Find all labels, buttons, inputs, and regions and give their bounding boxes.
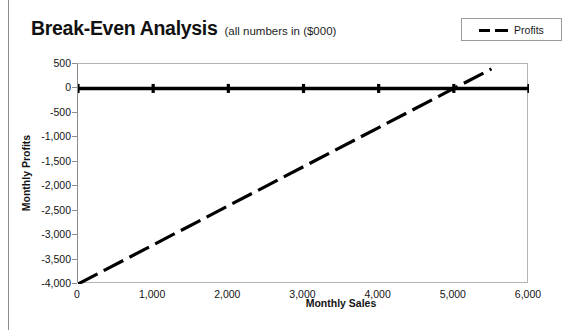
y-tick-label: -500 [50, 106, 71, 118]
y-axis-title: Monthly Profits [20, 135, 32, 211]
plot-area [77, 63, 528, 283]
data-point-marker [78, 84, 80, 93]
y-tick-mark [72, 136, 77, 137]
y-tick-mark [72, 63, 77, 64]
y-tick-label: -3,000 [41, 228, 71, 240]
chart-legend: Profits [461, 18, 562, 41]
data-point-marker [377, 84, 380, 93]
legend-label: Profits [514, 24, 544, 36]
y-tick-label: -2,500 [41, 204, 71, 216]
x-tick-label: 2,000 [214, 288, 240, 300]
y-tick-label: 0 [65, 81, 71, 93]
x-tick-label: 5,000 [440, 288, 466, 300]
chart-header: Break-Even Analysis (all numbers in ($00… [31, 17, 336, 40]
y-tick-label: 500 [53, 57, 71, 69]
legend-dashed-line-icon [479, 25, 511, 35]
y-tick-mark [72, 283, 77, 284]
legend-item-profits: Profits [479, 24, 544, 36]
y-tick-label: -4,000 [41, 277, 71, 289]
y-tick-label: -1,500 [41, 155, 71, 167]
plot-svg [78, 64, 529, 284]
series-line [78, 69, 491, 284]
y-tick-mark [72, 112, 77, 113]
y-tick-mark [72, 185, 77, 186]
y-tick-label: -1,000 [41, 130, 71, 142]
chart-subtitle: (all numbers in ($000) [225, 25, 337, 37]
y-tick-label: -2,000 [41, 179, 71, 191]
data-point-marker [527, 84, 529, 93]
y-tick-mark [72, 161, 77, 162]
y-tick-mark [72, 259, 77, 260]
data-point-marker [152, 84, 155, 93]
y-tick-mark [72, 210, 77, 211]
page-left-border [8, 0, 9, 330]
x-axis-title: Monthly Sales [306, 297, 377, 309]
y-tick-mark [72, 234, 77, 235]
x-tick-label: 6,000 [515, 288, 541, 300]
data-point-marker [227, 84, 230, 93]
chart-title: Break-Even Analysis [31, 17, 218, 40]
data-point-marker [302, 84, 305, 93]
y-tick-mark [72, 87, 77, 88]
x-tick-label: 1,000 [139, 288, 165, 300]
y-tick-label: -3,500 [41, 253, 71, 265]
x-tick-label: 0 [74, 288, 80, 300]
